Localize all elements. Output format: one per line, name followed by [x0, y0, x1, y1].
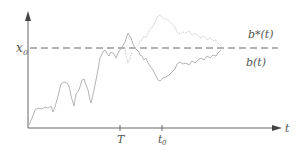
label-x0-sub: 0	[23, 48, 28, 57]
curve-b-star-segment	[125, 48, 132, 63]
label-b-star: b*(t)	[248, 28, 274, 41]
label-T: T	[117, 133, 126, 146]
label-t0-sub: 0	[162, 139, 167, 147]
label-t-axis: t	[285, 122, 290, 135]
x-axis-arrow-icon	[272, 125, 282, 131]
reflection-diagram: x 0 T t 0 t b*(t) b(t)	[0, 0, 297, 153]
y-axis-arrow-icon	[25, 11, 31, 21]
curve-b-star	[135, 15, 221, 48]
label-b: b(t)	[246, 56, 266, 69]
label-x0: x	[16, 41, 23, 55]
curve-b	[28, 33, 221, 127]
